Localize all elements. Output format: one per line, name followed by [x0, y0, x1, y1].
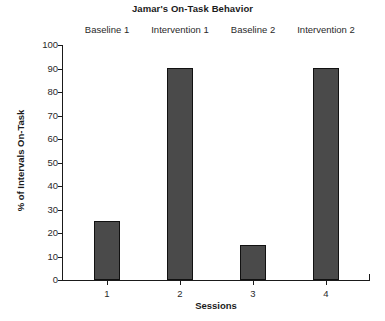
- bar-chart-figure: Jamar's On-Task Behavior Baseline 1Inter…: [0, 0, 385, 321]
- y-tick-mark: [58, 139, 62, 140]
- y-tick-mark: [58, 210, 62, 211]
- x-tick-mark-2: [180, 280, 181, 285]
- chart-title: Jamar's On-Task Behavior: [0, 3, 385, 14]
- phase-label-3: Baseline 2: [231, 24, 275, 35]
- y-tick-label: 90: [34, 63, 58, 74]
- x-tick-label: 4: [323, 288, 328, 299]
- y-tick-mark: [58, 280, 62, 281]
- phase-label-1: Baseline 1: [85, 24, 129, 35]
- x-tick-mark-4: [326, 280, 327, 285]
- phase-label-4: Intervention 2: [297, 24, 355, 35]
- y-tick-mark: [58, 186, 62, 187]
- x-axis-line: [62, 280, 370, 281]
- y-tick-label: 100: [34, 39, 58, 50]
- y-axis-line: [62, 45, 63, 281]
- y-tick-mark: [58, 163, 62, 164]
- x-axis-title: Sessions: [62, 300, 370, 311]
- y-tick-mark: [58, 45, 62, 46]
- x-tick-label: 1: [104, 288, 109, 299]
- y-tick-label: 40: [34, 180, 58, 191]
- y-tick-label: 30: [34, 204, 58, 215]
- y-tick-label: 70: [34, 110, 58, 121]
- plot-area: 1009080706050403020100 1234: [62, 45, 370, 280]
- bar-session-3: [240, 245, 266, 280]
- y-tick-mark: [58, 257, 62, 258]
- y-tick-label: 20: [34, 227, 58, 238]
- y-tick-mark: [58, 233, 62, 234]
- x-tick-mark-3: [253, 280, 254, 285]
- y-tick-label: 60: [34, 133, 58, 144]
- bar-session-4: [313, 68, 339, 280]
- x-tick-label: 3: [250, 288, 255, 299]
- y-tick-label: 80: [34, 86, 58, 97]
- x-tick-mark-1: [107, 280, 108, 285]
- y-tick-label: 50: [34, 157, 58, 168]
- y-tick-mark: [58, 92, 62, 93]
- x-axis-end-tick: [369, 274, 370, 281]
- y-tick-mark: [58, 69, 62, 70]
- y-axis-title: % of Intervals On-Task: [15, 86, 26, 236]
- phase-label-2: Intervention 1: [151, 24, 209, 35]
- bar-session-2: [167, 68, 193, 280]
- bar-session-1: [94, 221, 120, 280]
- y-tick-mark: [58, 116, 62, 117]
- y-tick-label: 10: [34, 251, 58, 262]
- y-tick-label: 0: [34, 274, 58, 285]
- x-tick-label: 2: [177, 288, 182, 299]
- phase-label-row: Baseline 1Intervention 1Baseline 2Interv…: [62, 24, 370, 38]
